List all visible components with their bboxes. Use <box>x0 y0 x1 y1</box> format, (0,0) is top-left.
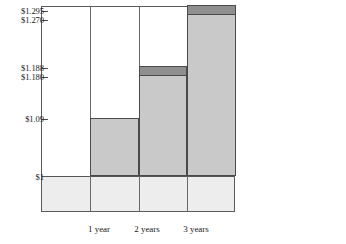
bar-2-years <box>139 66 188 176</box>
bar-1-year <box>90 118 139 176</box>
ytick-label-1180: $1.180 <box>21 73 44 82</box>
bar-cap-3-years <box>188 6 235 15</box>
xtick-label-3-years: 3 years <box>162 224 230 234</box>
bar-cap-2-years <box>140 67 187 76</box>
ytick-label-1: $1 <box>36 173 44 182</box>
cell-divider-1 <box>90 7 91 211</box>
ytick-label-109: $1.09 <box>25 115 44 124</box>
ytick-label-1270: $1.270 <box>21 16 44 25</box>
bar-3-years <box>187 5 236 176</box>
bar-chart: $1.295 $1.270 $1.188 $1.180 $1.09 $1 1 y… <box>0 0 346 244</box>
plot-area <box>41 6 235 212</box>
